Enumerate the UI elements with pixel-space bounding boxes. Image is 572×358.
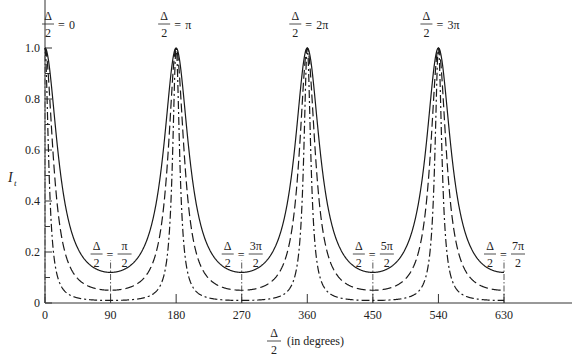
x-label-numerator: Δ — [270, 326, 278, 340]
annotation-rhs: 0 — [69, 18, 75, 32]
annotation-rhs-den: 2 — [515, 256, 521, 270]
annotation-lhs-den: 2 — [487, 256, 493, 270]
annotation-rhs: 3π — [447, 18, 459, 32]
annotation-equals: = — [369, 248, 376, 262]
annotation-lhs-den: 2 — [292, 26, 298, 40]
annotation-lhs-num: Δ — [93, 239, 101, 253]
x-label-suffix: (in degrees) — [287, 334, 344, 348]
annotation-peak: Δ2=0 — [42, 9, 75, 40]
x-tick-label: 450 — [364, 308, 382, 322]
x-tick-label: 540 — [429, 308, 447, 322]
annotation-peak: Δ2=2π — [289, 9, 328, 40]
annotation-rhs-den: 2 — [384, 256, 390, 270]
x-tick-label: 270 — [233, 308, 251, 322]
annotation-trough: Δ2=π2 — [91, 239, 132, 270]
annotation-trough: Δ2=7π2 — [484, 239, 525, 270]
y-tick-label: 0.8 — [25, 92, 40, 106]
x-tick-label: 0 — [42, 308, 48, 322]
annotation-equals: = — [58, 18, 65, 32]
annotation-rhs-num: 7π — [512, 239, 524, 253]
annotation-lhs-num: Δ — [355, 239, 363, 253]
y-tick-label: 0.4 — [25, 194, 40, 208]
annotation-rhs-den: 2 — [253, 256, 259, 270]
y-label-main: I — [7, 170, 14, 185]
annotation-lhs-den: 2 — [94, 256, 100, 270]
annotation-lhs-num: Δ — [423, 9, 431, 23]
airy-transmission-chart: 00.20.40.60.81.0 090180270360450540630 Δ… — [0, 0, 572, 358]
annotation-lhs-den: 2 — [45, 26, 51, 40]
annotation-lhs-num: Δ — [224, 239, 232, 253]
y-label-sub: t — [14, 178, 17, 188]
annotation-trough: Δ2=3π2 — [222, 239, 263, 270]
x-ticks: 090180270360450540630 — [42, 294, 513, 322]
annotation-equals: = — [500, 248, 507, 262]
annotation-rhs-num: 5π — [381, 239, 393, 253]
annotation-peak: Δ2=3π — [420, 9, 459, 40]
annotation-rhs-num: 3π — [250, 239, 262, 253]
guide-lines — [45, 48, 504, 303]
annotation-lhs-den: 2 — [423, 26, 429, 40]
y-tick-label: 0 — [34, 296, 40, 310]
annotation-lhs-num: Δ — [160, 9, 168, 23]
y-axis-label: I t — [7, 170, 17, 188]
annotation-equals: = — [436, 18, 443, 32]
y-tick-label: 0.2 — [25, 245, 40, 259]
annotation-rhs: 2π — [316, 18, 328, 32]
annotation-lhs-den: 2 — [225, 256, 231, 270]
annotation-lhs-num: Δ — [44, 9, 52, 23]
x-axis-label: Δ 2 (in degrees) — [267, 326, 344, 357]
annotation-trough: Δ2=5π2 — [353, 239, 394, 270]
x-label-denominator: 2 — [271, 343, 277, 357]
y-ticks: 00.20.40.60.81.0 — [25, 41, 52, 310]
annotation-rhs-num: π — [122, 239, 128, 253]
x-tick-label: 90 — [105, 308, 117, 322]
annotation-rhs: π — [185, 18, 191, 32]
x-tick-label: 360 — [298, 308, 316, 322]
annotation-peak: Δ2=π — [158, 9, 191, 40]
annotation-lhs-den: 2 — [356, 256, 362, 270]
annotation-lhs-num: Δ — [291, 9, 299, 23]
curves — [45, 48, 504, 300]
curve-dashed — [45, 48, 504, 290]
annotation-equals: = — [107, 248, 114, 262]
annotation-rhs-den: 2 — [122, 256, 128, 270]
annotation-lhs-num: Δ — [486, 239, 494, 253]
annotation-equals: = — [305, 18, 312, 32]
x-tick-label: 180 — [167, 308, 185, 322]
y-tick-label: 0.6 — [25, 143, 40, 157]
annotation-equals: = — [174, 18, 181, 32]
annotation-equals: = — [238, 248, 245, 262]
annotation-lhs-den: 2 — [161, 26, 167, 40]
curve-dash-dot — [45, 48, 504, 300]
x-tick-label: 630 — [495, 308, 513, 322]
y-tick-label: 1.0 — [25, 41, 40, 55]
annotations: Δ2=0Δ2=πΔ2=2πΔ2=3πΔ2=π2Δ2=3π2Δ2=5π2Δ2=7π… — [42, 9, 525, 270]
